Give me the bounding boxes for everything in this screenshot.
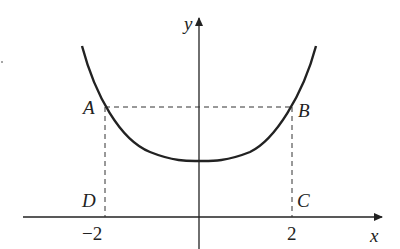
point-B-label: B	[298, 100, 310, 121]
x-axis-label: x	[369, 225, 379, 246]
tick-label-neg2: −2	[82, 223, 102, 244]
point-A-label: A	[81, 97, 95, 118]
y-axis-label: y	[182, 13, 193, 34]
point-C-label: C	[297, 190, 310, 211]
tick-label-2: 2	[287, 223, 297, 244]
point-D-label: D	[81, 190, 96, 211]
stray-dot	[1, 61, 3, 63]
graph-canvas: y x A B D C −2 2	[0, 0, 400, 249]
